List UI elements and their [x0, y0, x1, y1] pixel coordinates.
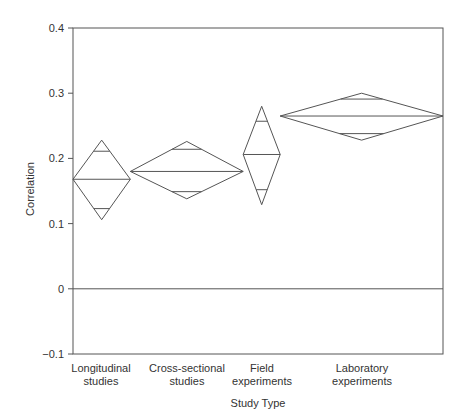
y-tick-label: 0.1 [49, 218, 64, 230]
y-tick-label: −0.1 [42, 348, 64, 360]
x-category-label: Laboratoryexperiments [332, 362, 392, 388]
y-tick-label: 0.2 [49, 152, 64, 164]
y-tick-label: 0 [58, 283, 64, 295]
x-axis-label: Study Type [231, 397, 286, 409]
y-axis-label: Correlation [24, 159, 36, 219]
x-category-label: Fieldexperiments [232, 362, 292, 388]
diamond-interval [280, 93, 443, 140]
diamond-interval [130, 141, 243, 198]
chart-plot: 0.40.30.20.10−0.1 [0, 0, 464, 419]
diamond-interval [73, 140, 130, 220]
x-category-label: Longitudinalstudies [71, 362, 130, 388]
y-tick-label: 0.3 [49, 87, 64, 99]
y-tick-label: 0.4 [49, 22, 64, 34]
plot-frame [73, 28, 443, 354]
x-category-label: Cross-sectionalstudies [149, 362, 225, 388]
